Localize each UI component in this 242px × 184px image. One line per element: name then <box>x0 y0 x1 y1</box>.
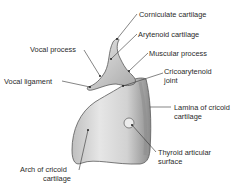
label-cricoarytenoid-joint-line1: Cricoarytenoid <box>164 67 212 76</box>
arytenoid-cartilage-shape <box>87 39 135 91</box>
label-thyroid-articular-line2: surface <box>158 157 182 166</box>
label-corniculate-cartilage: Corniculate cartilage <box>139 10 206 19</box>
label-arytenoid-cartilage: Arytenoid cartilage <box>138 30 199 39</box>
cricoid-arytenoid-diagram: Corniculate cartilage Arytenoid cartilag… <box>0 0 242 184</box>
label-vocal-ligament: Vocal ligament <box>4 77 52 86</box>
label-muscular-process: Muscular process <box>149 49 207 58</box>
thyroid-articular-surface-shape <box>124 118 134 128</box>
label-arch-line1: Arch of cricoid <box>20 165 67 174</box>
label-lamina-line2: cartilage <box>174 112 202 121</box>
label-vocal-process: Vocal process <box>30 45 76 54</box>
cricoid-cartilage-shape <box>72 78 151 164</box>
label-arch-line2: cartilage <box>43 174 71 183</box>
label-cricoarytenoid-joint-line2: joint <box>164 76 178 85</box>
label-lamina-line1: Lamina of cricoid <box>174 103 230 112</box>
label-thyroid-articular-line1: Thyroid articular <box>158 148 211 157</box>
